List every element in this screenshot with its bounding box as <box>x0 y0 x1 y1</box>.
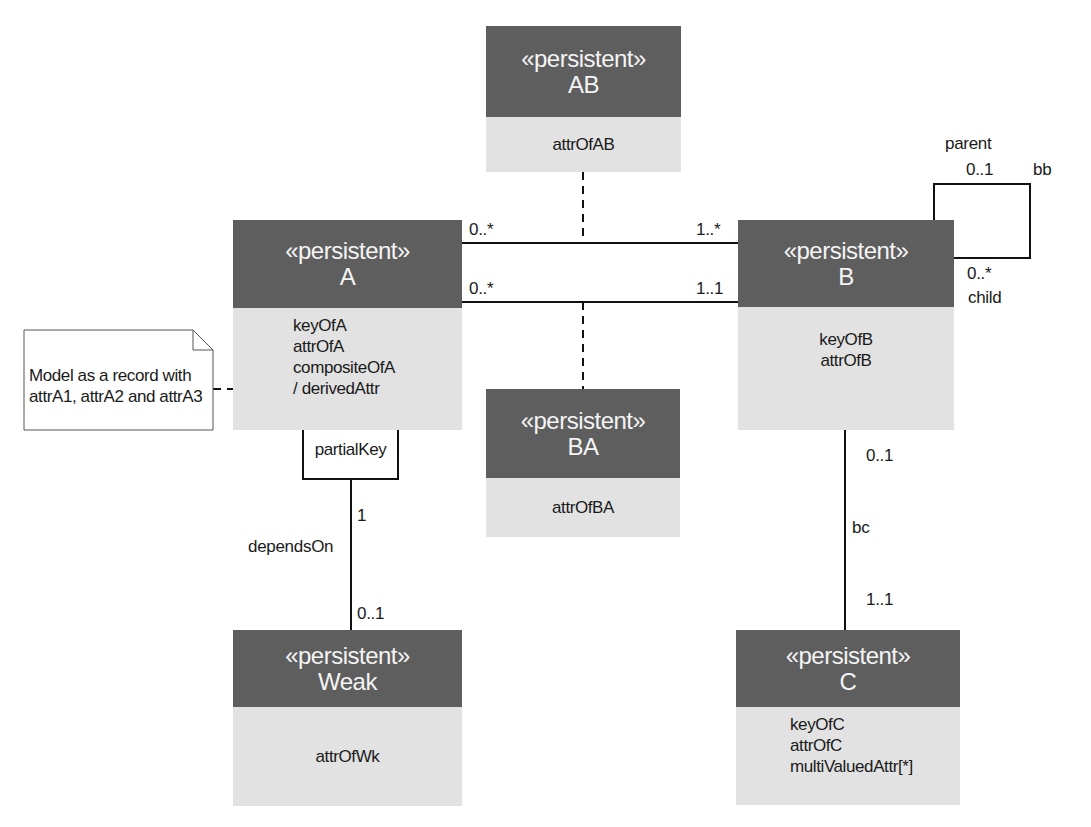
mult-dependson-weak: 0..1 <box>357 604 384 624</box>
mult-child: 0..* <box>967 264 991 284</box>
class-ba-header: «persistent» BA <box>486 389 680 478</box>
class-b-header: «persistent» B <box>738 220 954 307</box>
assoc-name-dependson: dependsOn <box>248 537 333 557</box>
class-b[interactable]: «persistent» B keyOfB attrOfB <box>738 220 954 430</box>
class-c-stereotype: «persistent» <box>786 643 911 669</box>
mult-parent: 0..1 <box>966 160 993 180</box>
mult-bc-c: 1..1 <box>866 590 893 610</box>
attribute: attrOfB <box>820 350 871 371</box>
class-c-name: C <box>840 669 857 695</box>
class-c[interactable]: «persistent» C keyOfC attrOfC multiValue… <box>736 630 960 805</box>
mult-b-bottom: 1..1 <box>696 279 723 299</box>
class-ab-attributes: attrOfAB <box>486 117 681 172</box>
class-ab-stereotype: «persistent» <box>521 46 646 72</box>
class-a-header: «persistent» A <box>233 220 462 308</box>
qualifier-label: partialKey <box>315 440 387 459</box>
class-a-name: A <box>340 264 356 290</box>
mult-dependson-a: 1 <box>357 506 366 526</box>
note-text: Model as a record with attrA1, attrA2 an… <box>29 365 202 407</box>
class-ba[interactable]: «persistent» BA attrOfBA <box>486 389 680 537</box>
mult-bc-b: 0..1 <box>866 446 893 466</box>
class-weak-attributes: attrOfWk <box>233 707 462 806</box>
attribute: keyOfC <box>790 714 960 735</box>
class-b-name: B <box>838 264 854 290</box>
role-parent: parent <box>945 134 991 154</box>
attribute: keyOfB <box>819 329 872 350</box>
class-a-attributes: keyOfA attrOfA compositeOfA / derivedAtt… <box>233 308 462 430</box>
class-b-attributes: keyOfB attrOfB <box>738 307 954 430</box>
attribute: multiValuedAttr[*] <box>790 756 960 777</box>
class-weak-header: «persistent» Weak <box>233 630 462 707</box>
class-ba-name: BA <box>567 434 598 460</box>
class-a-stereotype: «persistent» <box>285 238 410 264</box>
assoc-name-bc: bc <box>852 518 869 538</box>
attribute: / derivedAttr <box>293 378 462 399</box>
class-ba-stereotype: «persistent» <box>521 408 646 434</box>
class-c-header: «persistent» C <box>736 630 960 707</box>
class-ab[interactable]: «persistent» AB attrOfAB <box>486 26 681 172</box>
qualifier-partialkey[interactable]: partialKey <box>302 430 399 480</box>
role-child: child <box>968 288 1001 308</box>
class-c-attributes: keyOfC attrOfC multiValuedAttr[*] <box>736 707 960 805</box>
mult-b-top: 1..* <box>696 220 720 240</box>
note[interactable]: Model as a record with attrA1, attrA2 an… <box>24 330 213 430</box>
attribute: attrOfBA <box>552 497 614 518</box>
class-weak-name: Weak <box>318 669 377 695</box>
attribute: attrOfC <box>790 735 960 756</box>
assoc-name-bb: bb <box>1033 160 1051 180</box>
class-weak[interactable]: «persistent» Weak attrOfWk <box>233 630 462 806</box>
class-ab-name: AB <box>568 72 599 98</box>
attribute: attrOfAB <box>553 134 615 155</box>
attribute: keyOfA <box>293 315 462 336</box>
class-ab-header: «persistent» AB <box>486 26 681 117</box>
attribute: compositeOfA <box>293 357 462 378</box>
class-weak-stereotype: «persistent» <box>285 643 410 669</box>
attribute: attrOfA <box>293 336 462 357</box>
note-line: attrA1, attrA2 and attrA3 <box>29 386 202 407</box>
mult-a-bottom: 0..* <box>469 279 493 299</box>
mult-a-top: 0..* <box>469 220 493 240</box>
class-b-stereotype: «persistent» <box>784 238 909 264</box>
attribute: attrOfWk <box>316 746 380 767</box>
class-a[interactable]: «persistent» A keyOfA attrOfA compositeO… <box>233 220 462 430</box>
class-ba-attributes: attrOfBA <box>486 478 680 537</box>
note-line: Model as a record with <box>29 365 202 386</box>
